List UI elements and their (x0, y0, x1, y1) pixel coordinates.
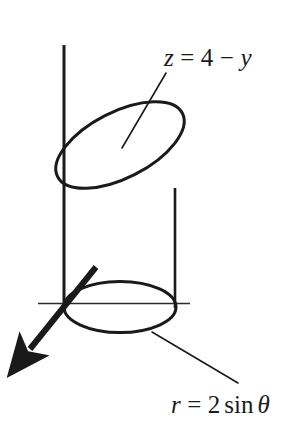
sine-function: sin (224, 391, 253, 418)
cylinder-leader-line (152, 332, 238, 383)
plane-constant: 4 (201, 44, 214, 71)
cylinder-equals: = (187, 391, 201, 418)
cylinder-top-cut-ellipse (43, 84, 198, 206)
theta-symbol: θ (258, 391, 270, 418)
cylinder-lhs: r (171, 391, 181, 418)
plane-equals: = (180, 44, 194, 71)
cylinder-equation-label: r=2sinθ (171, 392, 270, 417)
plane-minus: − (220, 44, 234, 71)
plane-rhs-var: y (240, 44, 251, 71)
diagram-canvas (0, 0, 300, 435)
plane-equation-label: z=4−y (164, 45, 252, 70)
plane-leader-line (122, 73, 166, 148)
plane-lhs: z (164, 44, 174, 71)
cylinder-coefficient: 2 (208, 391, 221, 418)
math-diagram-figure: z=4−y r=2sinθ (0, 0, 300, 435)
